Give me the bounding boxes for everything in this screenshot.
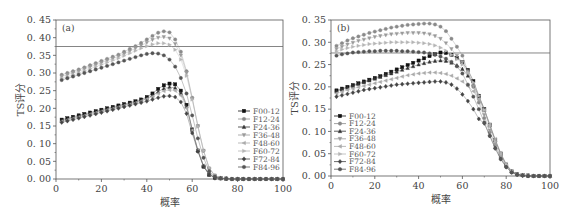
data-point: [488, 134, 491, 137]
x-axis-label: 概率: [431, 193, 451, 205]
data-point: [406, 74, 409, 78]
data-point: [270, 177, 273, 180]
y-tick-label: 0. 45: [27, 14, 51, 25]
data-point: [401, 41, 404, 45]
data-point: [428, 80, 432, 84]
y-axis-label: TS评分: [289, 81, 300, 115]
data-point: [362, 88, 366, 92]
data-point: [450, 83, 454, 87]
data-point: [71, 75, 74, 78]
data-point: [433, 23, 436, 26]
data-point: [356, 86, 359, 90]
data-point: [173, 43, 177, 46]
data-point: [477, 117, 481, 121]
data-point: [185, 92, 188, 95]
x-tick-label: 0: [328, 180, 334, 191]
data-point: [362, 33, 365, 36]
data-point: [455, 77, 458, 81]
data-point: [139, 54, 142, 57]
data-point: [379, 85, 383, 89]
data-point: [384, 84, 388, 88]
legend-marker-icon: [242, 165, 246, 169]
data-point: [83, 71, 86, 74]
data-point: [395, 41, 398, 45]
data-point: [384, 79, 387, 83]
data-point: [428, 71, 431, 75]
data-point: [439, 51, 442, 54]
data-point: [368, 87, 372, 91]
data-point: [122, 59, 125, 62]
data-point: [406, 23, 409, 26]
data-point: [162, 30, 165, 33]
data-point: [362, 50, 365, 53]
data-point: [510, 171, 513, 174]
data-point: [417, 59, 420, 62]
y-tick-label: 0. 05: [27, 156, 51, 167]
legend: F00-12F12-24F24-36F36-48F48-60F60-72F72-…: [238, 107, 280, 172]
series-F24-36: [60, 85, 285, 180]
data-point: [390, 41, 393, 45]
data-point: [259, 177, 262, 180]
data-point: [168, 58, 171, 61]
data-point: [417, 22, 420, 25]
data-point: [521, 174, 524, 177]
data-point: [548, 174, 551, 177]
y-tick-label: 0. 25: [302, 59, 326, 70]
data-point: [515, 173, 518, 176]
data-point: [351, 45, 354, 49]
data-point: [225, 177, 228, 180]
data-point: [351, 91, 355, 95]
y-tick-label: 0. 30: [27, 67, 51, 78]
legend-marker-icon: [242, 157, 246, 161]
x-tick-label: 0: [53, 183, 59, 194]
data-point: [173, 95, 177, 99]
data-point: [357, 35, 360, 38]
data-point: [168, 85, 172, 88]
data-point: [439, 79, 443, 83]
data-point: [168, 82, 171, 85]
data-point: [417, 41, 420, 45]
y-tick-label: 0. 15: [27, 120, 51, 131]
x-tick-label: 100: [541, 180, 559, 191]
data-point: [134, 55, 137, 58]
data-point: [450, 60, 453, 63]
data-point: [111, 62, 114, 65]
data-point: [100, 66, 103, 69]
data-point: [444, 72, 447, 76]
data-point: [494, 147, 497, 150]
y-tick-label: 0. 35: [27, 50, 51, 61]
data-point: [145, 38, 148, 41]
data-point: [483, 121, 486, 124]
data-point: [373, 30, 376, 33]
data-point: [242, 177, 245, 180]
panel-label: (a): [62, 23, 74, 33]
data-point: [340, 41, 343, 44]
data-point: [340, 93, 344, 97]
data-point: [444, 57, 447, 60]
data-point: [379, 29, 382, 32]
data-point: [461, 54, 464, 57]
data-point: [417, 81, 421, 85]
data-point: [253, 177, 256, 180]
chart-canvas: 0. 000. 050. 100. 150. 200. 250. 300. 35…: [0, 0, 572, 216]
data-point: [406, 50, 409, 53]
data-point: [264, 177, 267, 180]
data-point: [230, 177, 233, 180]
y-tick-label: 0. 20: [27, 103, 51, 114]
data-point: [395, 49, 398, 52]
data-point: [526, 174, 529, 177]
series-F72-84: [60, 94, 285, 181]
data-point: [213, 175, 216, 178]
x-tick-label: 40: [141, 183, 153, 194]
y-tick-label: 0. 25: [27, 85, 51, 96]
data-point: [362, 84, 365, 88]
data-point: [450, 37, 453, 40]
data-point: [66, 77, 69, 80]
data-point: [179, 76, 182, 79]
y-axis-label: TS评分: [15, 83, 26, 117]
x-tick-label: 100: [274, 183, 292, 194]
data-point: [422, 80, 426, 84]
legend-marker-icon: [242, 109, 245, 112]
y-tick-label: 0. 00: [302, 170, 326, 181]
data-point: [378, 80, 381, 84]
